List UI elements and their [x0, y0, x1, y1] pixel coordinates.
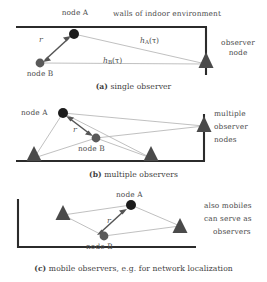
node-b-label: node B: [12, 69, 68, 80]
node-b-label: node B: [86, 242, 113, 253]
caption-panel-c: (c) mobile observers, e.g. for network l…: [0, 264, 267, 273]
observer-node-right-marker: [197, 116, 212, 132]
link-nodea-obsright: [131, 205, 180, 226]
node-a-marker: [126, 200, 136, 210]
mobile-observer-left-marker: [56, 205, 71, 220]
distance-arrow-r: [97, 209, 127, 235]
node-a-marker: [58, 108, 68, 118]
distance-label-r: r: [39, 35, 43, 44]
channel-b-line: [40, 63, 206, 64]
distance-label-r: r: [107, 216, 111, 225]
walls-label: walls of indoor environment: [113, 9, 221, 20]
observer-node-mid-marker: [144, 146, 159, 161]
observer-node-label-line2: node: [210, 48, 266, 59]
link-a-obs-left: [34, 113, 63, 158]
node-a-label: node A: [21, 108, 48, 119]
mobile-note-line3: observers: [213, 227, 251, 238]
node-a-label: node A: [47, 8, 103, 19]
channel-b-label: hB(τ): [103, 56, 122, 65]
multiple-observers-label-line3: nodes: [214, 135, 237, 146]
panel-multiple-observers: node A node B r multiple observer nodes …: [0, 96, 267, 186]
caption-panel-a: (a) single observer: [0, 82, 267, 91]
link-b-obs-right: [96, 126, 204, 138]
channel-a-label: hA(τ): [140, 36, 159, 45]
figure-container: node A node B walls of indoor environmen…: [0, 0, 267, 282]
multiple-observers-label-line2: observer: [214, 122, 248, 133]
node-b-marker: [36, 59, 45, 68]
link-nodeb-obsright: [104, 226, 180, 236]
panel-mobile-observers: node A node B r also mobiles can serve a…: [0, 186, 267, 282]
node-a-label: node A: [116, 190, 143, 201]
observer-node-left-marker: [27, 146, 42, 161]
node-b-marker: [92, 134, 101, 143]
node-b-marker: [100, 232, 109, 241]
distance-label-r: r: [73, 125, 77, 134]
mobile-note-line2: can serve as: [204, 214, 252, 225]
multiple-observers-label-line1: multiple: [214, 109, 246, 120]
caption-panel-b: (b) multiple observers: [0, 170, 267, 179]
panel-single-observer: node A node B walls of indoor environmen…: [0, 0, 267, 96]
mobile-observer-right-marker: [173, 218, 188, 233]
node-a-marker: [69, 29, 79, 39]
mobile-note-line1: also mobiles: [204, 201, 252, 212]
distance-arrow-r: [43, 36, 71, 62]
node-b-label: node B: [78, 144, 105, 155]
